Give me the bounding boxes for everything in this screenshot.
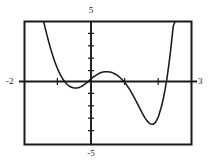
x-axis-min-label: -2	[6, 77, 14, 86]
plot-canvas	[0, 0, 211, 164]
y-axis-max-label: 5	[89, 6, 94, 15]
x-axis-max-label: 3	[198, 77, 203, 86]
graph-widget: 5 -5 -2 3	[0, 0, 211, 164]
y-axis-min-label: -5	[87, 149, 95, 158]
